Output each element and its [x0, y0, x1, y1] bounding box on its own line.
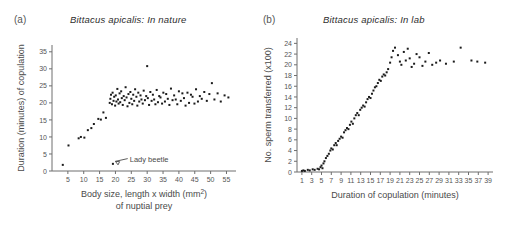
data-point [162, 92, 164, 94]
data-point [411, 66, 413, 68]
data-point [144, 99, 146, 101]
data-point [347, 128, 349, 130]
data-point [364, 106, 366, 108]
data-point [309, 169, 311, 171]
x-axis-tick-label: 30 [143, 176, 151, 183]
data-point [186, 92, 188, 94]
data-point [121, 97, 123, 99]
data-point [125, 86, 127, 88]
data-point [148, 104, 150, 106]
data-point [138, 101, 140, 103]
data-point [445, 63, 447, 65]
data-point [151, 100, 153, 102]
y-axis-tick-label: 2 [288, 158, 292, 165]
data-point [312, 168, 314, 170]
data-point [321, 167, 323, 169]
data-point [183, 97, 185, 99]
data-point [185, 105, 187, 107]
y-axis-title: No. sperm transferred (x100) [263, 47, 273, 163]
figure-container: (a) Bittacus apicalis: In nature 0510152… [0, 0, 509, 226]
x-axis-tick-label: 3 [310, 177, 314, 184]
data-point [413, 63, 415, 65]
y-axis-title: Duration (minutes) of copulation [16, 44, 26, 172]
data-point [359, 109, 361, 111]
data-point [336, 144, 338, 146]
data-point [321, 165, 323, 167]
data-point [164, 101, 166, 103]
data-point [217, 92, 219, 94]
data-point [146, 65, 148, 67]
data-point [129, 91, 131, 93]
data-point [349, 124, 351, 126]
data-point [381, 76, 383, 78]
annotation-arrowhead [115, 161, 119, 165]
x-axis-tick-label: 15 [367, 177, 375, 184]
data-point [333, 144, 335, 146]
x-axis-tick-label: 27 [425, 177, 433, 184]
y-axis-tick-label: 0 [288, 169, 292, 176]
x-axis-tick-label: 15 [96, 176, 104, 183]
data-point [87, 129, 89, 131]
panel-a-plot: 05101520253035510152025303540455055Lady … [0, 0, 254, 226]
data-point [122, 104, 124, 106]
data-point [170, 88, 172, 90]
data-point [140, 98, 142, 100]
data-point [325, 157, 327, 159]
data-point [371, 93, 373, 95]
y-axis-tick-label: 20 [39, 99, 47, 106]
x-axis-tick-label: 33 [455, 177, 463, 184]
y-axis-tick-label: 35 [39, 48, 47, 55]
data-point [195, 88, 197, 90]
data-point [345, 129, 347, 131]
data-point [355, 114, 357, 116]
x-axis-tick-label: 11 [347, 177, 354, 184]
data-point [173, 94, 175, 96]
data-point [132, 94, 134, 96]
data-point [83, 137, 85, 139]
data-point [93, 123, 95, 125]
data-point [328, 153, 330, 155]
data-point [193, 103, 195, 105]
data-point [181, 92, 183, 94]
x-axis-tick-label: 9 [339, 177, 343, 184]
y-axis-tick-label: 15 [39, 117, 47, 124]
x-axis-title-line2: of nuptial prey [116, 201, 173, 211]
x-axis-tick-label: 55 [223, 176, 231, 183]
x-axis-tick-label: 39 [484, 177, 492, 184]
data-point [211, 82, 213, 84]
data-point [484, 62, 486, 64]
data-point [134, 88, 136, 90]
y-axis-tick-label: 22 [284, 51, 292, 58]
panel-a: (a) Bittacus apicalis: In nature 0510152… [0, 0, 254, 226]
data-point [365, 101, 367, 103]
x-axis-tick-label: 37 [474, 177, 482, 184]
data-point [213, 98, 215, 100]
data-point [361, 107, 363, 109]
data-point [476, 61, 478, 63]
data-point [460, 47, 462, 49]
x-axis-title: Body size, length x width (mm2) [81, 188, 207, 199]
data-point [208, 93, 210, 95]
data-point [113, 100, 115, 102]
panel-b-plot: 0246810121416182022241357911131517192123… [255, 0, 509, 226]
data-point [119, 101, 121, 103]
data-point [453, 61, 455, 63]
data-point [175, 98, 177, 100]
data-point [190, 94, 192, 96]
data-point [358, 114, 360, 116]
data-point [322, 162, 324, 164]
x-axis-tick-label: 19 [386, 177, 394, 184]
data-point [407, 48, 409, 50]
data-point [109, 98, 111, 100]
data-point [111, 103, 113, 105]
data-point [386, 71, 388, 73]
data-point [389, 62, 391, 64]
annotation-arrow [115, 159, 127, 162]
data-point [120, 90, 122, 92]
data-point [128, 102, 130, 104]
x-axis-tick-label: 23 [406, 177, 414, 184]
data-point [370, 97, 372, 99]
data-point [133, 100, 135, 102]
data-point [110, 94, 112, 96]
x-axis-tick-label: 17 [376, 177, 384, 184]
